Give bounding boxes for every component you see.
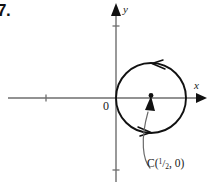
center-point-dot [149, 93, 154, 98]
x-axis-arrowhead [196, 93, 207, 103]
center-label-y-coordinate: , 0 [169, 157, 181, 169]
center-label-symbol: C [147, 157, 155, 169]
x-axis-label: x [194, 80, 199, 91]
origin-label: 0 [103, 100, 109, 112]
axes-group [8, 3, 207, 182]
center-point-label: C(1/2, 0) [147, 158, 184, 170]
y-axis-label: y [123, 4, 128, 15]
center-label-close-paren: ) [181, 157, 185, 169]
figure-container: 7. [0, 0, 208, 186]
y-axis-arrowhead [111, 3, 121, 16]
fraction-denominator: 2 [165, 162, 169, 171]
center-label-fraction: 1/2 [159, 158, 170, 170]
fraction-numerator: 1 [159, 157, 163, 166]
